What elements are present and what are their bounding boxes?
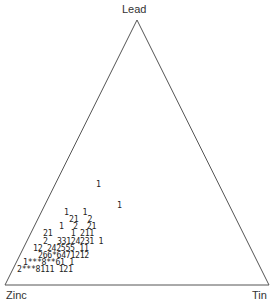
frequency-row: 2***8111 121 [17, 265, 73, 273]
vertex-label-tin: Tin [252, 290, 267, 301]
frequency-row: 1 [117, 201, 122, 209]
vertex-label-lead: Lead [122, 4, 146, 15]
frequency-row: 1 [96, 180, 101, 188]
ternary-diagram: Lead Zinc Tin 1 1 1 1 21 2 1 2 21 21 1 2… [0, 0, 272, 305]
vertex-label-zinc: Zinc [6, 290, 27, 301]
